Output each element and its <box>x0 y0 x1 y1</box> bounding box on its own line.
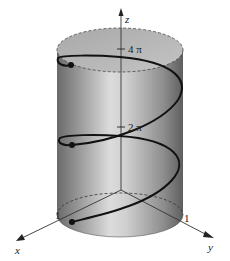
x-tick-label: 1 <box>55 209 61 221</box>
z-axis-arrowhead-icon <box>119 8 124 16</box>
z-tick-label-4pi: 4 π <box>128 43 142 55</box>
helix-point-start <box>69 219 75 225</box>
helix-point-two-turns <box>68 62 74 68</box>
helix-cylinder-diagram: z 4 π 2 π 1 1 x y <box>0 0 230 261</box>
x-axis-label: x <box>14 244 20 256</box>
y-axis-label: y <box>207 241 213 253</box>
helix-point-one-turn <box>69 142 75 148</box>
x-axis-arrowhead-icon <box>16 234 25 241</box>
y-axis-arrowhead-icon <box>203 231 214 238</box>
z-axis-label: z <box>124 13 130 25</box>
z-tick-label-2pi: 2 π <box>128 121 142 133</box>
cylinder-top-cap <box>57 28 183 72</box>
y-tick-label: 1 <box>184 212 190 224</box>
